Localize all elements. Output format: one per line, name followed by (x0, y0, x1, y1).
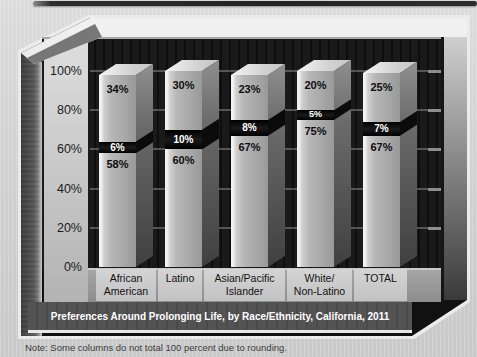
bar-white-non-latino: 20%5%75% (297, 60, 351, 267)
bar-top-label: 25% (363, 81, 400, 93)
bar-side-black-band (268, 64, 285, 267)
bar-side-face (400, 62, 417, 267)
chart-figure: 100%80%60%40%20%0% AfricanAmericanLatino… (0, 0, 477, 357)
bar-segment-middle: 7% (363, 122, 400, 136)
bar-middle-label: 10% (165, 130, 202, 150)
bar-asian-pacific-islander: 23%8%67% (231, 64, 285, 267)
bar-bottom-label: 67% (231, 141, 268, 153)
footnote: Note: Some columns do not total 100 perc… (25, 342, 287, 353)
bar-segment-bottom: 75% (297, 120, 334, 267)
bar-middle-label: 6% (99, 142, 136, 154)
bar-front-face: 20%5%75% (297, 71, 334, 267)
bar-top-label: 30% (165, 79, 202, 91)
bar-front-face: 25%7%67% (363, 73, 400, 267)
bar-segment-middle: 5% (297, 110, 334, 120)
bar-segment-top: 20% (297, 71, 334, 110)
bars-layer: 34%6%58%30%10%60%23%8%67%20%5%75%25%7%67… (0, 0, 477, 357)
bar-bottom-label: 75% (297, 125, 334, 137)
bar-segment-top: 30% (165, 71, 202, 130)
bar-segment-bottom: 67% (231, 136, 268, 267)
bar-top-label: 34% (99, 83, 136, 95)
bar-segment-top: 34% (99, 75, 136, 142)
cropped-top-bar (33, 1, 477, 6)
bar-segment-middle: 6% (99, 142, 136, 154)
bar-middle-label: 5% (297, 110, 334, 120)
bar-african-american: 34%6%58% (99, 64, 153, 267)
bar-front-face: 34%6%58% (99, 75, 136, 267)
bar-segment-bottom: 60% (165, 149, 202, 267)
bar-bottom-label: 67% (363, 141, 400, 153)
bar-side-black-band (400, 62, 417, 267)
bar-side-black-band (202, 60, 219, 267)
bar-front-face: 23%8%67% (231, 75, 268, 267)
bar-top-label: 20% (297, 79, 334, 91)
bar-middle-label: 7% (363, 122, 400, 136)
bar-middle-label: 8% (231, 120, 268, 136)
bar-side-face (202, 60, 219, 267)
bar-side-black-band (136, 64, 153, 267)
bar-segment-middle: 8% (231, 120, 268, 136)
bar-segment-bottom: 58% (99, 153, 136, 267)
bar-latino: 30%10%60% (165, 60, 219, 267)
bar-bottom-label: 58% (99, 158, 136, 170)
bar-side-black-band (334, 60, 351, 267)
bar-side-face (136, 64, 153, 267)
bar-side-face (268, 64, 285, 267)
bar-top-label: 23% (231, 83, 268, 95)
bar-front-face: 30%10%60% (165, 71, 202, 267)
bar-total: 25%7%67% (363, 62, 417, 267)
bar-bottom-label: 60% (165, 154, 202, 166)
bar-side-face (334, 60, 351, 267)
bar-segment-middle: 10% (165, 130, 202, 150)
bar-segment-top: 23% (231, 75, 268, 120)
bar-segment-top: 25% (363, 73, 400, 122)
bar-segment-bottom: 67% (363, 136, 400, 267)
